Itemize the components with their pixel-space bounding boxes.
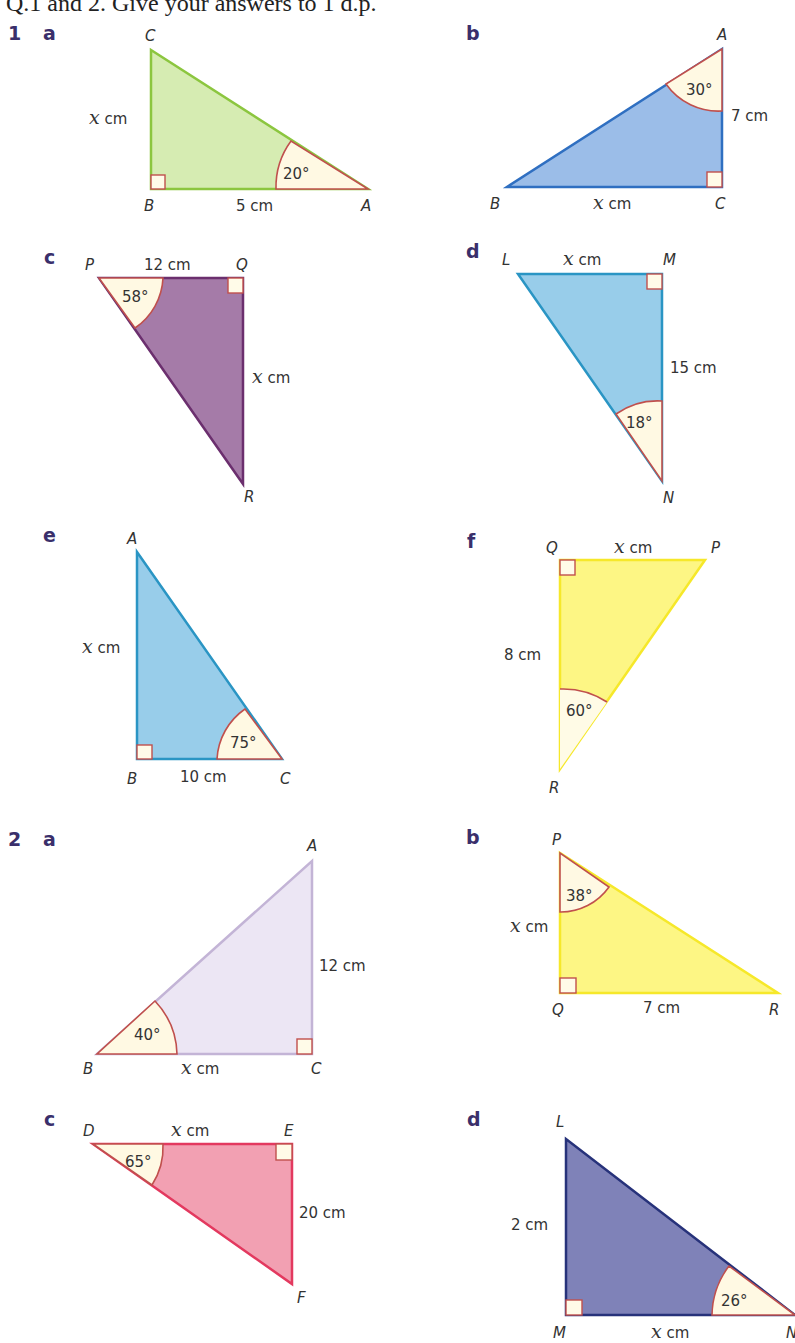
svg-text:x cm: x cm xyxy=(563,247,601,269)
triangle-1e: A B C x cm 10 cm 75° xyxy=(82,530,291,788)
side-length: 7 cm xyxy=(643,999,680,1017)
vertex-label: N xyxy=(786,1324,795,1342)
triangle-1b: A B C 7 cm x cm 30° xyxy=(490,26,768,213)
vertex-label: R xyxy=(769,1001,779,1019)
unit-label: cm xyxy=(263,369,291,387)
unit-label: cm xyxy=(662,1324,690,1342)
unknown-x: x xyxy=(89,106,100,128)
angle-label: 18° xyxy=(626,414,653,432)
angle-label: 38° xyxy=(566,887,593,905)
vertex-label: C xyxy=(145,27,156,45)
vertex-label: P xyxy=(552,831,562,849)
triangle-2d: L M N 2 cm x cm 26° xyxy=(511,1113,795,1342)
vertex-label: N xyxy=(663,489,674,507)
unknown-x: x xyxy=(252,365,263,387)
angle-label: 58° xyxy=(122,288,149,306)
side-length: 15 cm xyxy=(670,359,717,377)
svg-text:x cm: x cm xyxy=(651,1320,689,1342)
vertex-label: B xyxy=(83,1060,93,1078)
angle-label: 75° xyxy=(230,734,257,752)
svg-text:x cm: x cm xyxy=(82,635,120,657)
vertex-label: F xyxy=(297,1289,306,1307)
angle-label: 40° xyxy=(134,1026,161,1044)
vertex-label: Q xyxy=(236,256,248,274)
side-length: 5 cm xyxy=(236,197,273,215)
side-length: 12 cm xyxy=(319,957,366,975)
vertex-label: B xyxy=(144,197,154,215)
vertex-label: R xyxy=(244,488,254,506)
svg-text:x cm: x cm xyxy=(89,106,127,128)
unit-label: cm xyxy=(93,639,121,657)
vertex-label: L xyxy=(502,251,510,269)
unit-label: cm xyxy=(192,1060,220,1078)
triangle-2c: D E F x cm 20 cm 65° xyxy=(83,1118,346,1307)
angle-label: 30° xyxy=(686,81,713,99)
vertex-label: B xyxy=(127,770,137,788)
vertex-label: M xyxy=(553,1324,566,1342)
triangle-1c: P Q R 12 cm x cm 58° xyxy=(85,256,290,506)
unit-label: cm xyxy=(604,195,632,213)
unit-label: cm xyxy=(521,918,549,936)
unknown-x: x xyxy=(82,635,93,657)
side-length: 10 cm xyxy=(180,768,227,786)
vertex-label: C xyxy=(715,195,726,213)
vertex-label: R xyxy=(549,779,559,797)
unknown-x: x xyxy=(593,191,604,213)
vertex-label: Q xyxy=(552,1001,564,1019)
vertex-label: M xyxy=(663,251,676,269)
unknown-x: x xyxy=(171,1118,182,1140)
unknown-x: x xyxy=(614,535,625,557)
svg-text:x cm: x cm xyxy=(614,535,652,557)
side-length: 20 cm xyxy=(299,1204,346,1222)
unknown-x: x xyxy=(181,1056,192,1078)
vertex-label: L xyxy=(556,1113,564,1131)
unknown-x: x xyxy=(563,247,574,269)
triangle-1a: C B A x cm 5 cm 20° xyxy=(89,27,371,215)
side-length: 12 cm xyxy=(144,256,191,274)
unit-label: cm xyxy=(625,539,653,557)
svg-text:x cm: x cm xyxy=(181,1056,219,1078)
vertex-label: E xyxy=(284,1122,294,1140)
svg-text:x cm: x cm xyxy=(510,914,548,936)
angle-label: 20° xyxy=(283,165,310,183)
triangle-1d: L M N 15 cm x cm 18° xyxy=(502,247,717,507)
vertex-label: A xyxy=(716,26,727,44)
triangles-figure: C B A x cm 5 cm 20° A B C 7 cm x cm 30° … xyxy=(0,0,795,1343)
unit-label: cm xyxy=(182,1122,210,1140)
vertex-label: P xyxy=(711,539,721,557)
unit-label: cm xyxy=(574,251,602,269)
vertex-label: A xyxy=(306,837,317,855)
vertex-label: Q xyxy=(546,539,558,557)
triangle-2a: A B C 12 cm x cm 40° xyxy=(83,837,366,1078)
angle-label: 60° xyxy=(566,702,593,720)
triangle-2b: P Q R x cm 7 cm 38° xyxy=(510,831,779,1019)
vertex-label: A xyxy=(360,197,371,215)
svg-text:x cm: x cm xyxy=(171,1118,209,1140)
svg-text:x cm: x cm xyxy=(593,191,631,213)
vertex-label: C xyxy=(311,1060,322,1078)
angle-label: 26° xyxy=(721,1292,748,1310)
triangle-1f: Q P R 8 cm x cm 60° xyxy=(504,535,721,797)
unknown-x: x xyxy=(510,914,521,936)
vertex-label: A xyxy=(126,530,137,548)
vertex-label: P xyxy=(85,256,95,274)
svg-text:x cm: x cm xyxy=(252,365,290,387)
side-length: 2 cm xyxy=(511,1216,548,1234)
vertex-label: D xyxy=(83,1122,95,1140)
angle-label: 65° xyxy=(125,1153,152,1171)
vertex-label: C xyxy=(280,770,291,788)
unit-label: cm xyxy=(100,110,128,128)
vertex-label: B xyxy=(490,195,500,213)
unknown-x: x xyxy=(651,1320,662,1342)
side-length: 8 cm xyxy=(504,646,541,664)
side-length: 7 cm xyxy=(731,107,768,125)
